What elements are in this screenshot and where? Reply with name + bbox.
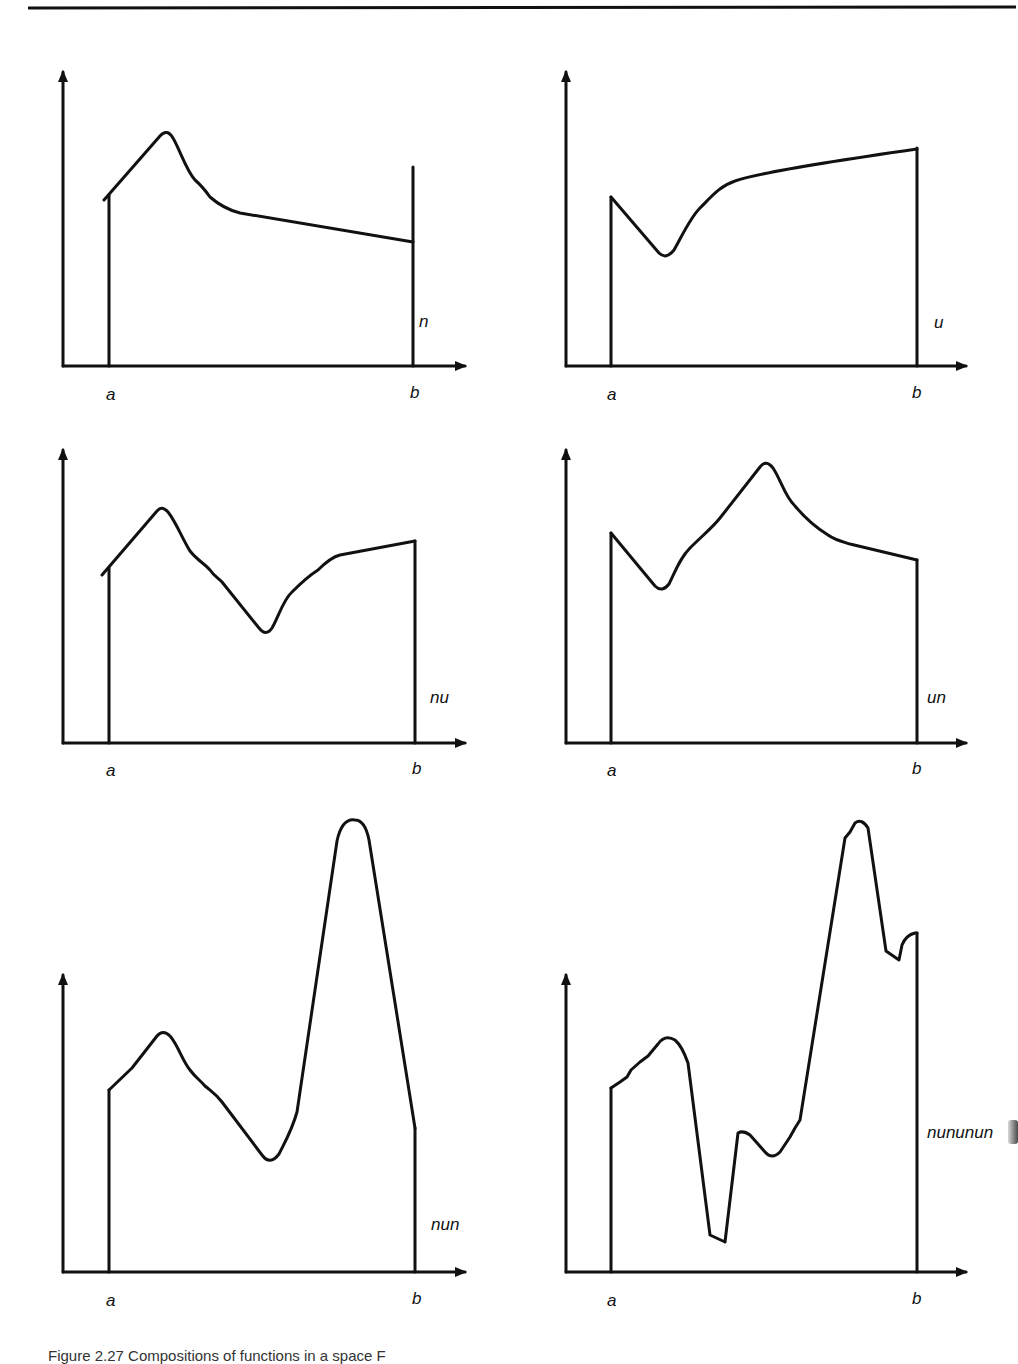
- x-label-b: b: [412, 760, 421, 777]
- scan-smudge: [1008, 1120, 1018, 1144]
- function-label-u: u: [934, 314, 943, 331]
- panel-nu: [63, 450, 465, 743]
- function-curve: [102, 508, 415, 632]
- x-label-a: a: [607, 386, 616, 403]
- panel-n: [63, 72, 465, 366]
- x-label-b: b: [410, 384, 419, 401]
- panel-nununun: [566, 821, 966, 1272]
- function-curve: [109, 820, 415, 1160]
- function-curve: [611, 463, 917, 589]
- function-curve: [611, 149, 917, 256]
- x-label-b: b: [912, 384, 921, 401]
- function-label-nun: nun: [431, 1216, 459, 1233]
- function-label-n: n: [419, 313, 428, 330]
- function-label-nu: nu: [430, 689, 449, 706]
- x-label-a: a: [607, 762, 616, 779]
- function-label-un: un: [927, 689, 946, 706]
- x-label-a: a: [607, 1292, 616, 1309]
- x-label-b: b: [912, 1290, 921, 1307]
- panel-u: [566, 72, 966, 366]
- x-label-b: b: [912, 760, 921, 777]
- x-label-b: b: [412, 1290, 421, 1307]
- x-label-a: a: [106, 386, 115, 403]
- function-label-nununun: nununun: [927, 1124, 993, 1141]
- function-curve: [611, 821, 917, 1242]
- function-curve: [104, 132, 413, 242]
- panel-nun: [63, 820, 465, 1272]
- panel-un: [566, 450, 966, 743]
- x-label-a: a: [106, 1292, 115, 1309]
- header-rule: [28, 7, 1016, 8]
- x-label-a: a: [106, 762, 115, 779]
- figure-caption: Figure 2.27 Compositions of functions in…: [48, 1347, 386, 1364]
